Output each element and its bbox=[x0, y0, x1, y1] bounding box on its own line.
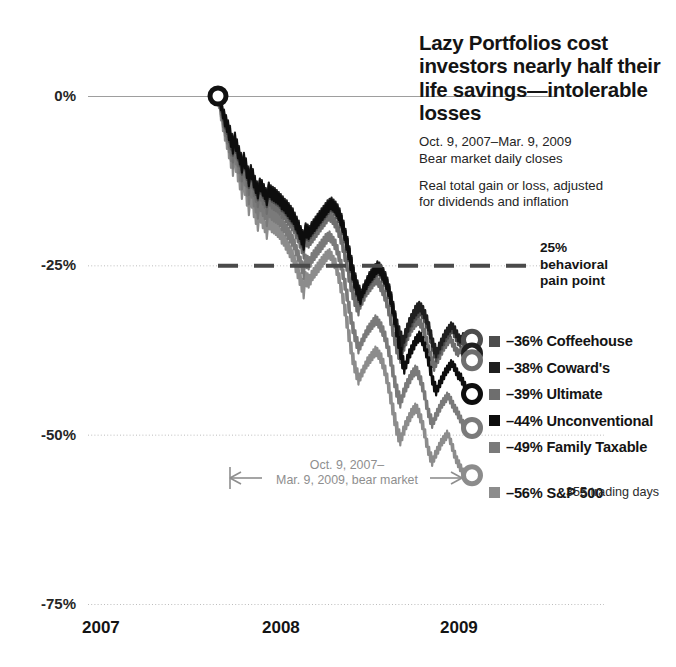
series-end-marker bbox=[464, 352, 481, 369]
legend-swatch-icon bbox=[489, 336, 500, 347]
y-axis-tick-label: 0% bbox=[8, 87, 76, 104]
legend-item-label: –38% Coward's bbox=[506, 360, 610, 376]
x-axis-tick-label: 2007 bbox=[82, 618, 120, 638]
pain-point-word-2: pain point bbox=[540, 273, 660, 290]
series-end-marker bbox=[464, 386, 481, 403]
legend-swatch-icon bbox=[489, 415, 500, 426]
arrow-segment bbox=[451, 472, 462, 478]
legend-item-label: –44% Unconventional bbox=[506, 413, 653, 429]
legend-item[interactable]: –36% Coffeehouse bbox=[489, 328, 675, 355]
subtitle-spacer bbox=[419, 168, 669, 178]
subtitle-basis-line-2: for dividends and inflation bbox=[419, 194, 669, 211]
y-axis-tick-label: -25% bbox=[8, 256, 76, 273]
subtitle-dates: Oct. 9, 2007–Mar. 9, 2009 bbox=[419, 134, 669, 151]
arrow-segment bbox=[230, 478, 241, 484]
legend-item[interactable]: –49% Family Taxable bbox=[489, 434, 675, 461]
legend-item[interactable]: –39% Ultimate bbox=[489, 381, 675, 408]
legend-swatch-icon bbox=[489, 362, 500, 373]
series-end-marker bbox=[464, 419, 481, 436]
subtitle-basis-line-1: Real total gain or loss, adjusted bbox=[419, 178, 669, 195]
legend-item-label: –39% Ultimate bbox=[506, 386, 602, 402]
chart-canvas: 0%-25%-50%-75% 200720082009 Lazy Portfol… bbox=[0, 0, 676, 667]
legend-item-label: –36% Coffeehouse bbox=[506, 333, 633, 349]
bear-note-line-1: Oct. 9, 2007– bbox=[262, 458, 432, 473]
bear-market-annotation: Oct. 9, 2007– Mar. 9, 2009, bear market bbox=[262, 458, 432, 489]
chart-legend: –36% Coffeehouse–38% Coward's–39% Ultima… bbox=[489, 328, 675, 506]
x-axis-tick-label: 2009 bbox=[440, 618, 478, 638]
legend-swatch-icon bbox=[489, 389, 500, 400]
start-marker bbox=[210, 88, 226, 104]
legend-item[interactable]: –44% Unconventional bbox=[489, 408, 675, 435]
page-title: Lazy Portfolios cost investors nearly ha… bbox=[419, 31, 667, 124]
legend-item[interactable]: –38% Coward's bbox=[489, 355, 675, 382]
subtitle-block: Oct. 9, 2007–Mar. 9, 2009 Bear market da… bbox=[419, 134, 669, 211]
x-axis-tick-label: 2008 bbox=[262, 618, 300, 638]
y-axis-tick-label: -50% bbox=[8, 426, 76, 443]
pain-point-word-1: behavioral bbox=[540, 257, 660, 274]
legend-item-label: –49% Family Taxable bbox=[506, 439, 647, 455]
bear-note-line-2: Mar. 9, 2009, bear market bbox=[262, 473, 432, 488]
subtitle-closes: Bear market daily closes bbox=[419, 151, 669, 168]
arrow-segment bbox=[451, 478, 462, 484]
legend-swatch-icon bbox=[489, 487, 500, 498]
legend-footnote: 355 trading days bbox=[566, 485, 659, 499]
y-axis-tick-label: -75% bbox=[8, 595, 76, 612]
pain-point-label: 25% behavioral pain point bbox=[540, 240, 660, 290]
pain-point-value: 25% bbox=[540, 240, 660, 257]
legend-swatch-icon bbox=[489, 442, 500, 453]
arrow-segment bbox=[230, 472, 241, 478]
series-end-marker bbox=[464, 467, 481, 484]
